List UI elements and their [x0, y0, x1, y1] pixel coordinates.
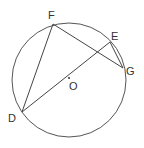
center-point-o	[68, 77, 70, 79]
label-g: G	[126, 65, 135, 77]
segment-de	[22, 42, 110, 112]
segment-df	[22, 24, 53, 112]
label-d: D	[8, 112, 16, 124]
label-o: O	[69, 80, 78, 92]
circle-diagram: F E G D O	[0, 0, 144, 148]
label-f: F	[48, 9, 55, 21]
label-e: E	[111, 30, 118, 42]
